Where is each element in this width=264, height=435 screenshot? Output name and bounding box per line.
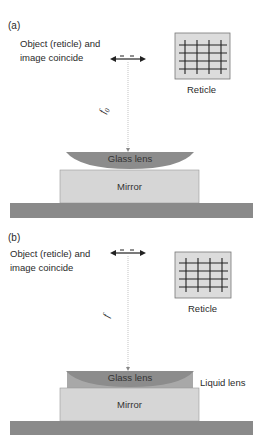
panel-b-caption-line2: image coincide xyxy=(10,261,73,275)
panel-a-mirror-label: Mirror xyxy=(60,181,199,192)
panel-a-object-arrow-icon xyxy=(110,56,146,62)
panel-b-base xyxy=(10,421,253,435)
panel-a-base xyxy=(10,203,253,218)
panel-a-reticle-icon xyxy=(175,33,230,79)
panel-a-reticle-label: Reticle xyxy=(187,83,216,97)
panel-b-glass-lens-label: Glass lens xyxy=(66,372,194,383)
panel-b-reticle-label: Reticle xyxy=(188,302,217,316)
panel-b-caption-line1: Object (reticle) and xyxy=(10,247,90,261)
panel-b-reticle-icon xyxy=(175,252,231,298)
diagram-canvas xyxy=(0,0,264,435)
panel-b-label: (b) xyxy=(8,232,20,243)
panel-b-mirror-label: Mirror xyxy=(60,399,199,410)
panel-b-object-arrow-icon xyxy=(110,250,146,256)
panel-b-liquid-lens-label: Liquid lens xyxy=(200,376,245,390)
panel-a-glass-lens-label: Glass lens xyxy=(66,153,194,164)
